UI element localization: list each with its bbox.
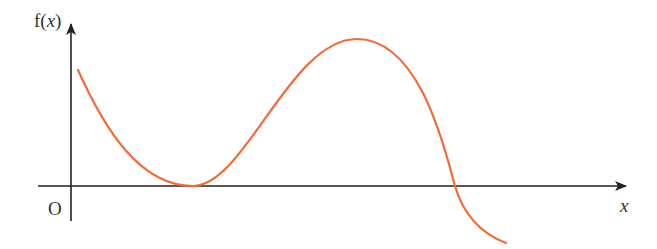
y-axis-label: f(x) <box>34 10 61 32</box>
function-curve <box>78 39 506 243</box>
origin-label: O <box>48 198 62 219</box>
function-graph: f(x) O x <box>0 0 657 249</box>
x-axis-label: x <box>619 195 629 216</box>
